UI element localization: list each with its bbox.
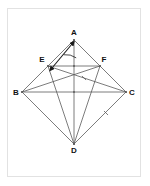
cevian-DF [74, 66, 100, 144]
vertex-label-c: C [129, 88, 135, 97]
vertex-dot-o [73, 91, 75, 93]
side-DC [74, 92, 126, 144]
vertex-dot-b [21, 91, 23, 93]
vertex-label-d: D [71, 146, 77, 155]
cevian-DE [48, 66, 74, 144]
cevian-BF [22, 66, 100, 92]
geometry-canvas: ABCDEF [0, 0, 150, 186]
vertex-dot-a [73, 39, 75, 41]
vertex-label-f: F [102, 55, 107, 64]
vertex-dot-f [99, 65, 101, 67]
geometry-figure: ABCDEF [0, 0, 150, 186]
measure-arrow-group [52, 44, 72, 68]
vertex-label-e: E [39, 55, 45, 64]
double-arrow-EA [52, 44, 72, 68]
vertex-dot-c [125, 91, 127, 93]
vertex-label-b: B [13, 88, 19, 97]
side-BD [22, 92, 74, 144]
vertex-dot-m [73, 65, 75, 67]
cevian-EC [48, 66, 126, 92]
vertex-dot-d [73, 143, 75, 145]
vertex-label-a: A [71, 28, 77, 37]
vertex-dot-e [47, 65, 49, 67]
